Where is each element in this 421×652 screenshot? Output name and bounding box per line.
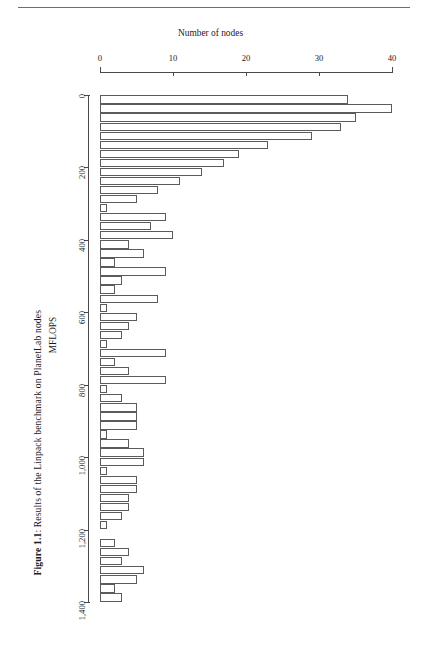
- bar: [100, 258, 115, 266]
- bar: [100, 285, 115, 293]
- bar: [100, 548, 129, 556]
- bar: [100, 132, 312, 140]
- bar: [100, 150, 239, 158]
- bar: [100, 394, 122, 402]
- bar: [100, 539, 115, 547]
- bar: [100, 95, 348, 103]
- bar: [100, 575, 137, 583]
- bar: [100, 168, 202, 176]
- bar: [100, 494, 129, 502]
- bar: [100, 249, 144, 257]
- bar: [100, 485, 137, 493]
- bar: [100, 276, 122, 284]
- bar: [100, 566, 144, 574]
- bar: [100, 584, 115, 592]
- bar: [100, 331, 122, 339]
- bar: [100, 439, 129, 447]
- bar: [100, 231, 173, 239]
- bar: [100, 304, 107, 312]
- bar: [100, 521, 107, 529]
- chart-plot-area: Number of nodes MFLOPS 010203040 0200400…: [0, 0, 421, 652]
- bar: [100, 476, 137, 484]
- bar: [100, 141, 268, 149]
- bar: [100, 177, 180, 185]
- bar: [100, 385, 107, 393]
- bar: [100, 458, 144, 466]
- bar: [100, 123, 341, 131]
- bar: [100, 340, 107, 348]
- bar: [100, 295, 158, 303]
- bar: [100, 412, 137, 420]
- bar: [100, 267, 166, 275]
- bar: [100, 204, 107, 212]
- bar: [100, 159, 224, 167]
- bar: [100, 313, 137, 321]
- bar: [100, 557, 122, 565]
- bar: [100, 593, 122, 601]
- bar: [100, 367, 129, 375]
- bar: [100, 195, 137, 203]
- bar: [100, 104, 392, 112]
- bar: [100, 186, 158, 194]
- bar: [100, 240, 129, 248]
- bar: [100, 213, 166, 221]
- bar: [100, 421, 137, 429]
- bar-series: [0, 0, 421, 652]
- bar: [100, 376, 166, 384]
- bar: [100, 358, 115, 366]
- bar: [100, 113, 356, 121]
- bar: [100, 349, 166, 357]
- bar: [100, 222, 151, 230]
- bar: [100, 430, 107, 438]
- bar: [100, 403, 137, 411]
- bar: [100, 512, 122, 520]
- bar: [100, 503, 129, 511]
- bar: [100, 448, 144, 456]
- bar: [100, 322, 129, 330]
- bar: [100, 467, 107, 475]
